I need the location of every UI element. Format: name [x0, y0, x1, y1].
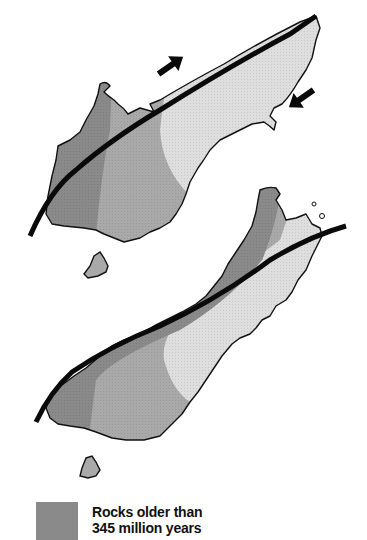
past-island [0, 0, 367, 260]
stewart-island-present [80, 456, 100, 478]
legend: Rocks older than 345 million years [36, 500, 366, 540]
fault-diagram [0, 0, 367, 540]
stewart-island-past [84, 252, 108, 278]
legend-swatch-old-rocks [36, 502, 78, 540]
legend-label: Rocks older than 345 million years [92, 504, 202, 536]
legend-label-line2: 345 million years [92, 520, 202, 536]
legend-label-line1: Rocks older than [92, 504, 202, 520]
northeast-arrow-icon [153, 49, 188, 81]
